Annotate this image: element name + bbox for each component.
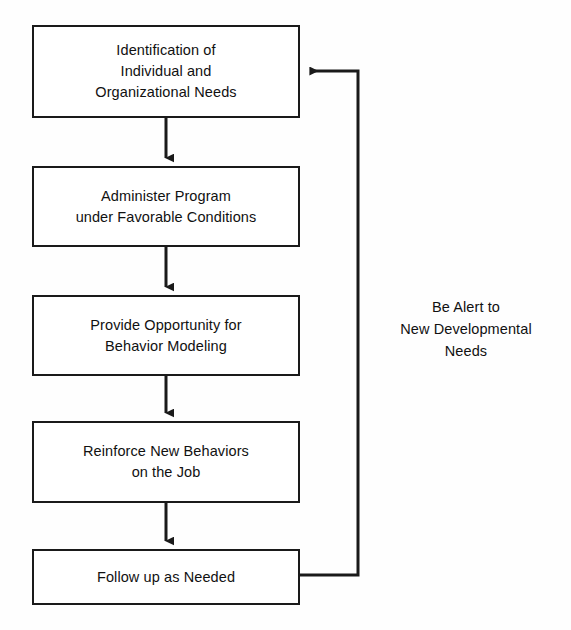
flow-node-identification-label: Identification of Individual and Organiz… [95, 40, 236, 103]
flow-node-follow-up-label: Follow up as Needed [97, 567, 235, 588]
flow-node-provide-opportunity-label: Provide Opportunity for Behavior Modelin… [90, 315, 241, 357]
connector-feedback-loop [300, 71, 358, 575]
flow-node-provide-opportunity: Provide Opportunity for Behavior Modelin… [32, 295, 300, 376]
flow-node-administer: Administer Program under Favorable Condi… [32, 166, 300, 247]
flow-node-reinforce-label: Reinforce New Behaviors on the Job [83, 441, 249, 483]
flow-node-follow-up: Follow up as Needed [32, 549, 300, 605]
flow-node-reinforce: Reinforce New Behaviors on the Job [32, 421, 300, 503]
flow-node-administer-label: Administer Program under Favorable Condi… [76, 186, 257, 228]
feedback-loop-note: Be Alert to New Developmental Needs [375, 296, 557, 362]
flowchart-canvas: Identification of Individual and Organiz… [0, 0, 571, 630]
flow-node-identification: Identification of Individual and Organiz… [32, 25, 300, 118]
